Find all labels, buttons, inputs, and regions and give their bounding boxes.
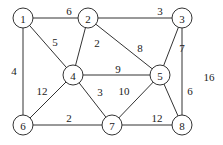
edge-weight-4-5: 9 [115, 63, 121, 75]
node-2: 2 [78, 8, 98, 28]
node-5: 5 [150, 65, 170, 85]
node-label: 6 [20, 120, 26, 132]
edge-weight-2-5: 8 [137, 42, 143, 54]
node-8: 8 [172, 115, 192, 135]
edge-weight-1-4: 5 [52, 36, 58, 48]
edge-weight-3-5: 7 [179, 42, 185, 54]
graph-svg: 6345287169123106212 12345678 [0, 0, 223, 145]
edge-weight-6-7: 2 [66, 112, 72, 124]
edge-weight-2-3: 3 [157, 5, 163, 17]
node-label: 1 [20, 13, 26, 25]
edge-weight-7-8: 12 [152, 112, 163, 124]
nodes-group: 12345678 [13, 8, 192, 135]
node-7: 7 [102, 115, 122, 135]
node-1: 1 [13, 8, 33, 28]
edge-weight-3-8: 16 [204, 71, 216, 83]
node-6: 6 [13, 115, 33, 135]
edge-weight-1-6: 4 [11, 65, 17, 77]
node-label: 8 [179, 120, 185, 132]
edge-weight-4-6: 12 [37, 85, 48, 97]
edge-weight-5-8: 6 [187, 85, 193, 97]
node-label: 2 [85, 13, 91, 25]
node-3: 3 [172, 8, 192, 28]
node-label: 5 [157, 70, 163, 82]
weighted-graph-diagram: 6345287169123106212 12345678 [0, 0, 223, 145]
edge-1-4 [23, 18, 73, 75]
node-label: 4 [70, 70, 76, 82]
edge-weight-5-7: 10 [119, 85, 131, 97]
node-4: 4 [63, 65, 83, 85]
edge-weight-2-4: 2 [94, 37, 100, 49]
node-label: 3 [179, 13, 185, 25]
edge-weight-4-7: 3 [97, 86, 103, 98]
node-label: 7 [109, 120, 115, 132]
edge-weight-1-2: 6 [66, 5, 72, 17]
